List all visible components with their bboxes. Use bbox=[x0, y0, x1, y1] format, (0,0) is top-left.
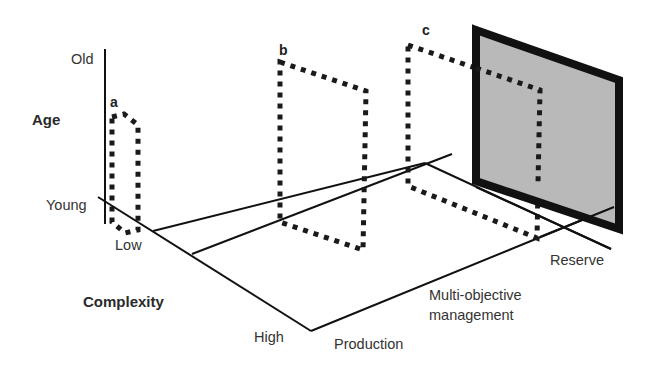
complexity-axis-title: Complexity bbox=[83, 293, 165, 310]
panel-b bbox=[280, 62, 366, 250]
multi-objective-label-line2: management bbox=[429, 307, 514, 323]
age-axis-top-label: Old bbox=[71, 51, 94, 67]
complexity-high-label: High bbox=[254, 329, 284, 345]
complexity-low-label: Low bbox=[115, 237, 142, 253]
multi-objective-label-line1: Multi-objective bbox=[429, 287, 522, 303]
age-axis-bottom-label: Young bbox=[46, 197, 87, 213]
low-rail bbox=[153, 163, 425, 231]
reserve-label: Reserve bbox=[550, 252, 604, 268]
panel-reserve-solid bbox=[476, 30, 619, 229]
panel-b-label: b bbox=[279, 42, 288, 58]
panel-a-label: a bbox=[110, 94, 118, 110]
age-axis-title: Age bbox=[32, 111, 60, 128]
mid-rail bbox=[192, 154, 452, 254]
panel-c-label: c bbox=[422, 22, 430, 38]
production-label: Production bbox=[334, 336, 403, 352]
age-complexity-management-diagram: a b c Old Age Young Low Complexity High … bbox=[0, 0, 649, 368]
